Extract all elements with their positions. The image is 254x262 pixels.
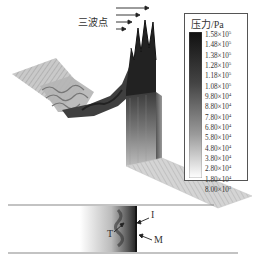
label-T: T	[107, 228, 113, 239]
triple-point-label: 三波点	[78, 14, 108, 29]
label-M: M	[154, 234, 163, 245]
label-I: I	[151, 209, 154, 220]
colorbar-legend: 压力/Pa 1.58×1051.48×1051.38×1051.28×1051.…	[184, 13, 248, 181]
colorbar-label: 1.38×105	[205, 51, 249, 61]
colorbar-label: 2.80×104	[205, 164, 249, 174]
colorbar-label: 8.80×104	[205, 102, 249, 112]
colorbar-label: 8.00×103	[205, 185, 249, 195]
colorbar-label: 5.80×104	[205, 133, 249, 143]
colorbar-label: 3.80×104	[205, 154, 249, 164]
colorbar-gradient	[189, 32, 202, 178]
colorbar-label: 1.08×105	[205, 82, 249, 92]
colorbar-label: 1.80×104	[205, 175, 249, 185]
colorbar-label: 1.48×105	[205, 40, 249, 50]
colorbar-label: 1.18×105	[205, 71, 249, 81]
vertical-wall	[126, 92, 156, 166]
colorbar-label: 6.80×104	[205, 123, 249, 133]
colorbar-label: 1.58×105	[205, 30, 249, 40]
colorbar-label: 9.80×104	[205, 92, 249, 102]
figure: 三波点 I T M 压力/Pa 1.58×1051.48×1051.38×105…	[0, 0, 254, 262]
colorbar-label: 7.80×104	[205, 113, 249, 123]
colorbar-label: 1.28×105	[205, 61, 249, 71]
colorbar-label: 4.80×104	[205, 144, 249, 154]
colorbar-title: 压力/Pa	[191, 16, 224, 31]
colorbar-labels: 1.58×1051.48×1051.38×1051.28×1051.18×105…	[205, 30, 249, 196]
